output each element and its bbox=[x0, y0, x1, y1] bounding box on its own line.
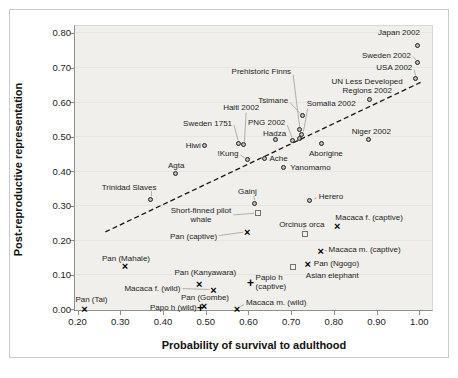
gridline-y-0.50 bbox=[75, 136, 432, 137]
data-point-pan-ngogo: × bbox=[302, 258, 314, 270]
label-papio-h-captive: Papio h (captive) bbox=[256, 273, 287, 291]
x-tick-0.90 bbox=[377, 311, 378, 315]
x-tick-0.60 bbox=[248, 311, 249, 315]
label-sweden-2002: Sweden 2002 bbox=[362, 51, 411, 60]
x-tick-label-0.30: 0.30 bbox=[104, 316, 136, 327]
data-point-short-finned-pilot-whale bbox=[255, 210, 261, 216]
label-ache: Ache bbox=[270, 154, 288, 163]
data-point-hiwi bbox=[202, 143, 207, 148]
label-sweden-1751: Sweden 1751 bbox=[183, 119, 232, 128]
gridline-y-0.10 bbox=[75, 274, 432, 275]
y-tick-label-0.70: 0.70 bbox=[30, 62, 71, 73]
gridline-y-0.20 bbox=[75, 240, 432, 241]
x-tick-label-0.20: 0.20 bbox=[62, 316, 94, 327]
label-gainj: Gainj bbox=[238, 187, 257, 196]
label-short-finned-pilot-whale: Short-finned pilot whale bbox=[171, 206, 231, 224]
data-point-yanomamo bbox=[281, 165, 286, 170]
x-tick-0.70 bbox=[291, 311, 292, 315]
label-asian-elephant: Asian elephant bbox=[306, 271, 359, 280]
data-point-sweden-1751 bbox=[236, 141, 241, 146]
data-point-trinidad-slaves bbox=[148, 197, 153, 202]
y-tick-label-0.80: 0.80 bbox=[30, 27, 71, 38]
x-tick-label-0.60: 0.60 bbox=[232, 316, 264, 327]
label-prehistoric-finns: Prehistoric Finns bbox=[232, 67, 292, 76]
label-orcinus-orca: Orcinus orca bbox=[279, 220, 324, 229]
label-somalia-2002: Somalia 2002 bbox=[307, 99, 356, 108]
label-yanomamo: Yanomamo bbox=[290, 163, 330, 172]
label-hadza: Hadza bbox=[263, 129, 286, 138]
y-tick-label-0.10: 0.10 bbox=[30, 269, 71, 280]
data-point-gainj bbox=[252, 201, 257, 206]
label-trinidad-slaves: Trinidad Slaves bbox=[102, 183, 157, 192]
label-macaca-m-captive: Macaca m. (captive) bbox=[329, 245, 401, 254]
x-tick-label-0.80: 0.80 bbox=[318, 316, 350, 327]
data-point-kung bbox=[245, 157, 250, 162]
y-tick-label-0.00: 0.00 bbox=[30, 304, 71, 315]
x-tick-label-0.70: 0.70 bbox=[275, 316, 307, 327]
chart-figure: 0.000.100.200.300.400.500.600.700.800.20… bbox=[0, 0, 458, 378]
label-herero: Herero bbox=[319, 192, 343, 201]
label-kung: !Kung bbox=[218, 149, 239, 158]
y-tick-label-0.30: 0.30 bbox=[30, 200, 71, 211]
label-haiti-2002: Haiti 2002 bbox=[223, 103, 259, 112]
label-macaca-f-captive: Macaca f. (captive) bbox=[335, 213, 403, 222]
y-tick-label-0.20: 0.20 bbox=[30, 235, 71, 246]
x-tick-0.80 bbox=[334, 311, 335, 315]
label-japan-2002: Japan 2002 bbox=[378, 28, 420, 37]
label-tsimane: Tsimane bbox=[258, 96, 288, 105]
y-axis-title: Post-reproductive representation bbox=[12, 20, 25, 320]
label-pan-kanyawara: Pan (Kanyawara) bbox=[174, 268, 236, 277]
data-point-tsimane bbox=[300, 113, 305, 118]
label-pan-ngogo: Pan (Ngogo) bbox=[314, 259, 359, 268]
data-point-pan-tai: × bbox=[78, 303, 90, 315]
x-tick-label-0.90: 0.90 bbox=[361, 316, 393, 327]
label-aborigine: Aborigine bbox=[309, 149, 343, 158]
label-hiwi: Hiwi bbox=[186, 141, 201, 150]
label-macaca-m-wild: Macaca m. (wild) bbox=[246, 298, 306, 307]
x-tick-1.00 bbox=[419, 311, 420, 315]
label-png-2002: PNG 2002 bbox=[248, 118, 285, 127]
label-un-less-developed-regions-2002: UN Less Developed Regions 2002 bbox=[332, 77, 403, 95]
data-point-orcinus-orca bbox=[302, 231, 308, 237]
label-pan-mahale: Pan (Mahale) bbox=[102, 254, 150, 263]
data-point-asian-elephant bbox=[290, 264, 296, 270]
data-point-niger-2002 bbox=[366, 137, 371, 142]
data-point-haiti-2002 bbox=[241, 142, 246, 147]
gridline-y-0.40 bbox=[75, 171, 432, 172]
data-point-pan-captive: × bbox=[241, 226, 253, 238]
label-macaca-f-wild: Macaca f. (wild) bbox=[124, 284, 180, 293]
y-tick-label-0.40: 0.40 bbox=[30, 166, 71, 177]
data-point-macaca-m-wild: × bbox=[231, 303, 243, 315]
data-point-un-less-developed-regions-2002 bbox=[367, 97, 372, 102]
label-agta: Agta bbox=[168, 161, 184, 170]
label-usa-2002: USA 2002 bbox=[376, 63, 412, 72]
x-tick-label-0.40: 0.40 bbox=[147, 316, 179, 327]
label-papo-h-wild: Papo h (wild) bbox=[150, 303, 197, 312]
data-point-pan-kanyawara: × bbox=[193, 278, 205, 290]
label-pan-captive: Pan (captive) bbox=[170, 232, 217, 241]
y-tick-label-0.50: 0.50 bbox=[30, 131, 71, 142]
y-tick-label-0.60: 0.60 bbox=[30, 97, 71, 108]
x-axis-title: Probability of survival to adulthood bbox=[75, 339, 433, 351]
label-pan-tai: Pan (Tai) bbox=[75, 295, 107, 304]
x-tick-label-1.00: 1.00 bbox=[403, 316, 435, 327]
data-point-macaca-m-captive: × bbox=[315, 245, 327, 257]
x-tick-label-0.50: 0.50 bbox=[190, 316, 222, 327]
data-point-agta bbox=[173, 171, 178, 176]
data-point-png-2002 bbox=[290, 138, 295, 143]
label-niger-2002: Niger 2002 bbox=[352, 127, 391, 136]
x-tick-0.30 bbox=[120, 311, 121, 315]
